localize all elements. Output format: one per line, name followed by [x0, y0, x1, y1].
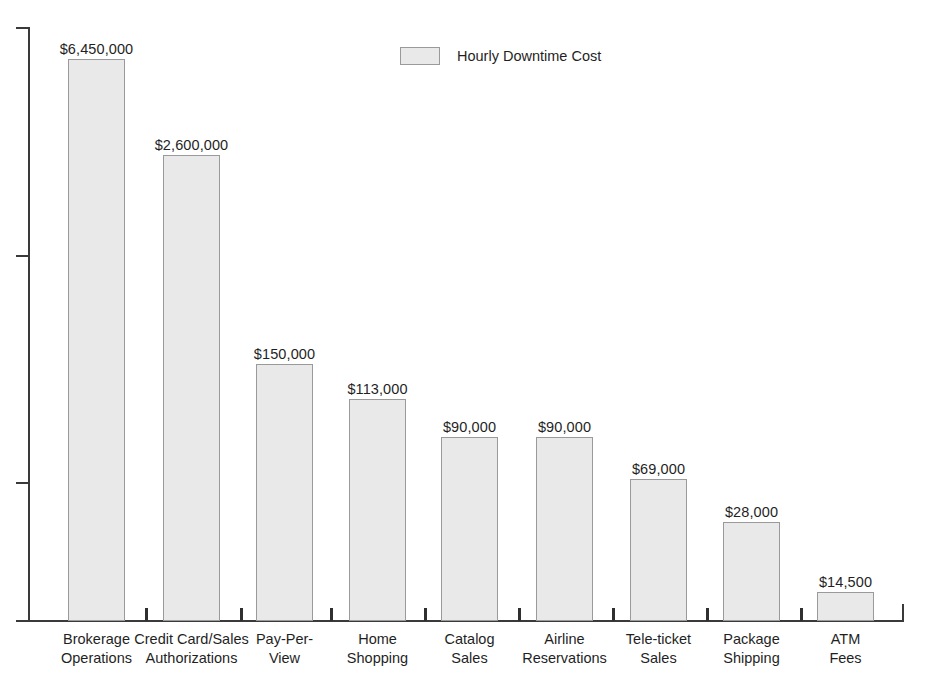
- x-axis-tick-5: [518, 608, 521, 621]
- bar-airline-reservations: [536, 437, 593, 621]
- category-label-airline-reservations: Airline Reservations: [509, 630, 620, 668]
- bar-value-airline-reservations: $90,000: [519, 419, 610, 435]
- category-line-1: Package: [701, 630, 802, 649]
- x-axis-tick-6: [612, 608, 615, 621]
- category-label-home-shopping: Home Shopping: [327, 630, 428, 668]
- x-axis-tick-8: [800, 608, 803, 621]
- bar-credit-card-sales-authorizations: [163, 155, 220, 621]
- category-label-pay-per-view: Pay-Per- View: [234, 630, 335, 668]
- bar-value-home-shopping: $113,000: [327, 381, 428, 397]
- y-axis-tick-3: [16, 482, 29, 484]
- bar-value-tele-ticket-sales: $69,000: [613, 461, 704, 477]
- category-line-2: Shipping: [701, 649, 802, 668]
- legend-swatch-hourly-downtime-cost: [400, 47, 440, 65]
- category-line-1: Tele-ticket: [608, 630, 709, 649]
- category-line-2: Reservations: [509, 649, 620, 668]
- bar-value-credit-card-sales-authorizations: $2,600,000: [131, 137, 252, 153]
- bar-home-shopping: [349, 399, 406, 621]
- bar-value-brokerage-operations: $6,450,000: [36, 41, 157, 57]
- legend-label-hourly-downtime-cost: Hourly Downtime Cost: [457, 48, 601, 64]
- bar-atm-fees: [817, 592, 874, 621]
- bar-tele-ticket-sales: [630, 479, 687, 621]
- bar-value-package-shipping: $28,000: [706, 504, 797, 520]
- bar-value-catalog-sales: $90,000: [424, 419, 515, 435]
- category-line-2: View: [234, 649, 335, 668]
- bar-value-pay-per-view: $150,000: [234, 346, 335, 362]
- category-line-2: Sales: [608, 649, 709, 668]
- bar-package-shipping: [723, 522, 780, 621]
- category-line-2: Fees: [800, 649, 891, 668]
- x-axis-tick-7: [706, 608, 709, 621]
- bar-chart: Hourly Downtime Cost $6,450,000 $2,600,0…: [0, 0, 925, 691]
- legend: Hourly Downtime Cost: [400, 47, 601, 65]
- category-label-package-shipping: Package Shipping: [701, 630, 802, 668]
- bar-value-atm-fees: $14,500: [800, 574, 891, 590]
- x-axis-tick-4: [424, 608, 427, 621]
- bar-brokerage-operations: [68, 59, 125, 621]
- x-axis-tick-2: [240, 608, 243, 621]
- x-axis-tick-3: [330, 608, 333, 621]
- x-axis-tick-1: [145, 608, 148, 621]
- category-label-tele-ticket-sales: Tele-ticket Sales: [608, 630, 709, 668]
- category-line-1: Catalog: [424, 630, 515, 649]
- category-line-1: Airline: [509, 630, 620, 649]
- category-line-2: Sales: [424, 649, 515, 668]
- category-line-1: Home: [327, 630, 428, 649]
- category-line-1: ATM: [800, 630, 891, 649]
- category-label-atm-fees: ATM Fees: [800, 630, 891, 668]
- y-axis-line: [28, 27, 30, 622]
- y-axis-tick-2: [16, 255, 29, 257]
- bar-pay-per-view: [256, 364, 313, 621]
- category-line-1: Pay-Per-: [234, 630, 335, 649]
- x-axis-end-tick: [902, 604, 904, 622]
- category-label-catalog-sales: Catalog Sales: [424, 630, 515, 668]
- bar-catalog-sales: [441, 437, 498, 621]
- category-line-2: Shopping: [327, 649, 428, 668]
- y-axis-tick-top: [16, 27, 29, 29]
